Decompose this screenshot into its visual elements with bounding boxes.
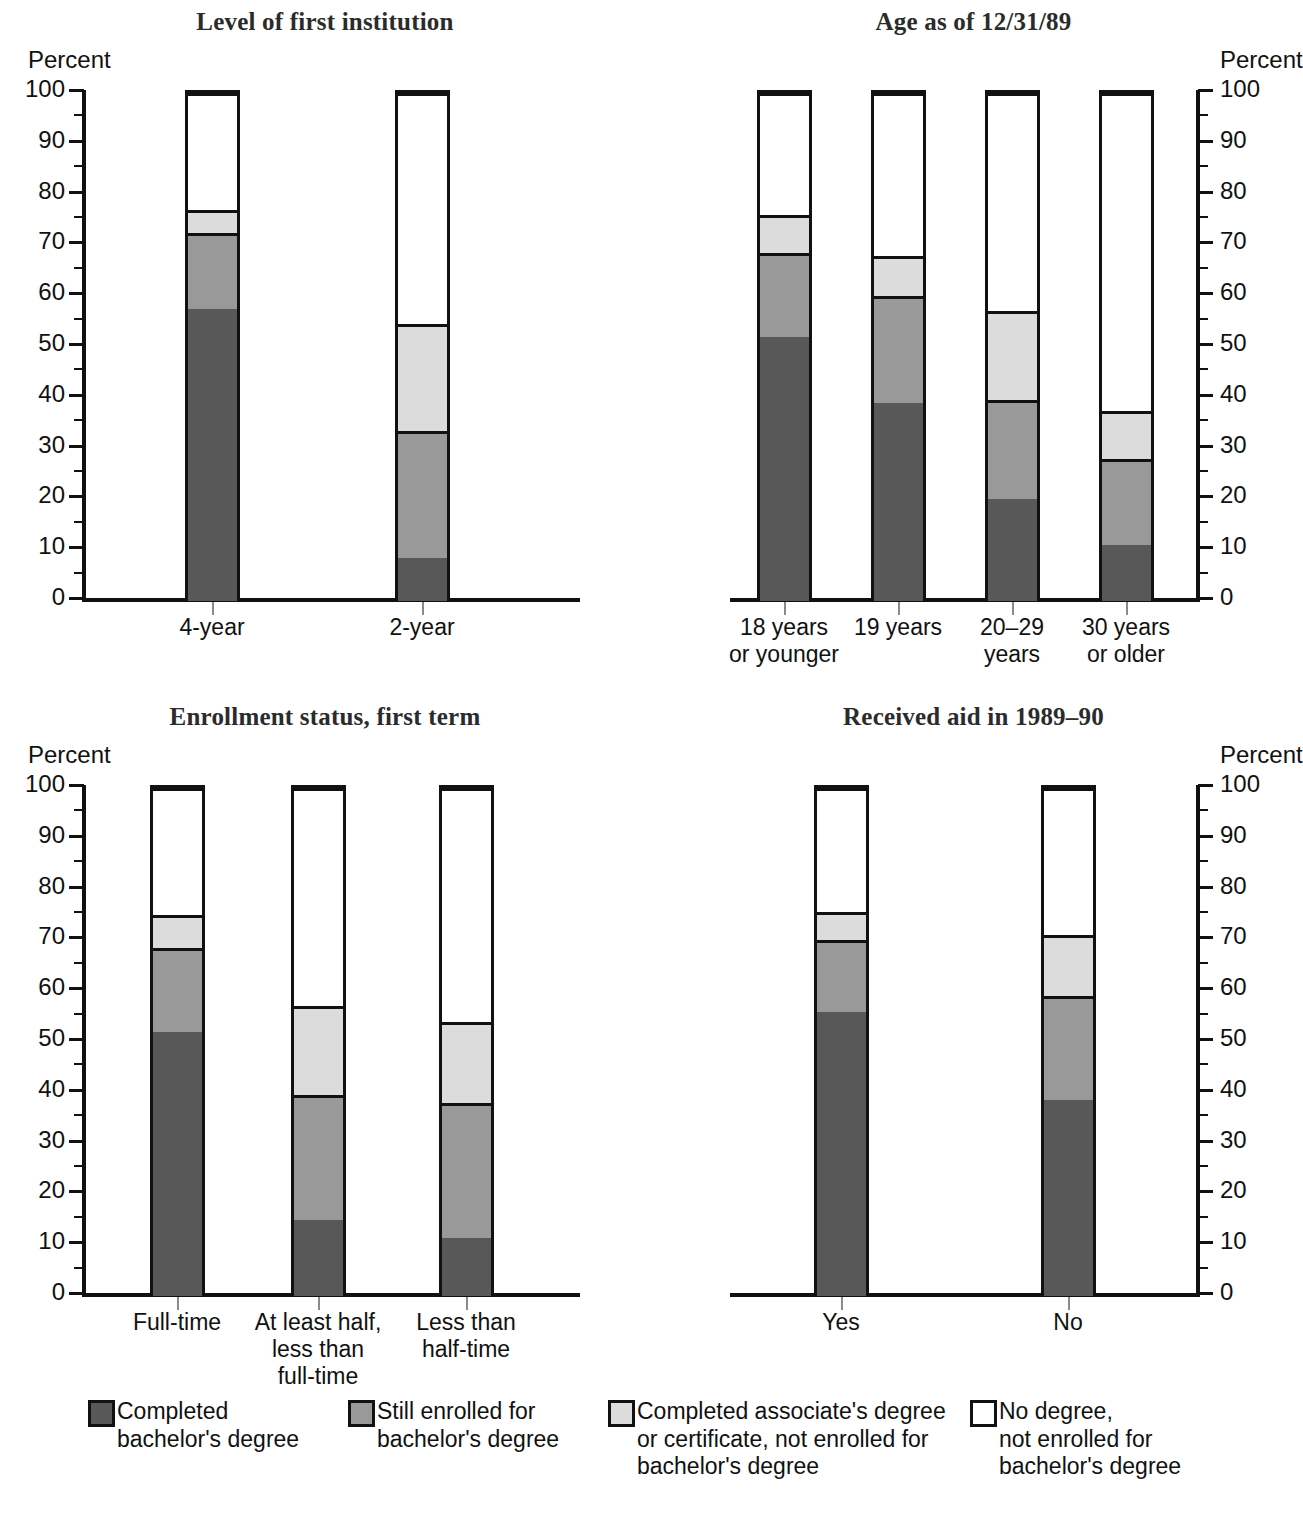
legend-swatch-completed-associate: [608, 1400, 635, 1427]
y-axis-tick-major: [1198, 1241, 1213, 1244]
legend-item: No degree, not enrolled for bachelor's d…: [970, 1398, 1181, 1481]
legend-item: Still enrolled for bachelor's degree: [348, 1398, 559, 1453]
chart-legend: Completed bachelor's degreeStill enrolle…: [0, 1392, 1297, 1517]
legend-label: Still enrolled for bachelor's degree: [377, 1398, 559, 1453]
y-axis-tick-label: 30: [1220, 1128, 1298, 1152]
y-axis-tick-label: 50: [1220, 1026, 1298, 1050]
bar-segment-completed-bachelors: [817, 1012, 866, 1296]
y-axis-tick-major: [1198, 1089, 1213, 1092]
stacked-bar: [1041, 785, 1096, 1293]
y-axis-tick-minor: [1198, 1267, 1208, 1269]
bar-segment-no-degree: [817, 788, 866, 912]
legend-swatch-still-enrolled: [348, 1400, 375, 1427]
y-axis-tick-minor: [1198, 1165, 1208, 1167]
legend-label: Completed bachelor's degree: [117, 1398, 299, 1453]
y-axis-tick-major: [1198, 936, 1213, 939]
y-axis-tick-label: 0: [1220, 1280, 1298, 1304]
y-axis-tick-minor: [1198, 962, 1208, 964]
y-axis-tick-major: [1198, 1292, 1213, 1295]
y-axis-tick-minor: [1198, 1063, 1208, 1065]
y-axis-tick-major: [1198, 835, 1213, 838]
y-axis-tick-major: [1198, 886, 1213, 889]
y-axis-tick-major: [1198, 1038, 1213, 1041]
y-axis-tick-label: 100: [1220, 772, 1298, 796]
y-axis-title: Percent: [1220, 741, 1303, 769]
y-axis-tick-major: [1198, 784, 1213, 787]
bar-segment-no-degree: [1044, 788, 1093, 935]
y-axis-tick-major: [1198, 987, 1213, 990]
x-axis-category-label: Yes: [771, 1309, 911, 1336]
legend-label: Completed associate's degree or certific…: [637, 1398, 946, 1481]
bar-segment-completed-bachelors: [1044, 1100, 1093, 1296]
x-axis-category-label: No: [998, 1309, 1138, 1336]
legend-label: No degree, not enrolled for bachelor's d…: [999, 1398, 1181, 1481]
bar-segment-still-enrolled: [817, 940, 866, 1011]
chart-title: Received aid in 1989–90: [650, 703, 1297, 731]
bar-segment-still-enrolled: [1044, 996, 1093, 1100]
bar-segment-completed-associate: [1044, 935, 1093, 996]
y-axis-tick-minor: [1198, 911, 1208, 913]
legend-swatch-no-degree: [970, 1400, 997, 1427]
y-axis-tick-minor: [1198, 1013, 1208, 1015]
x-axis-line: [730, 1293, 1200, 1297]
y-axis-tick-label: 90: [1220, 823, 1298, 847]
y-axis-tick-label: 80: [1220, 874, 1298, 898]
y-axis-tick-minor: [1198, 860, 1208, 862]
y-axis-tick-minor: [1198, 1114, 1208, 1116]
y-axis-tick-label: 10: [1220, 1229, 1298, 1253]
bar-segment-completed-associate: [817, 912, 866, 940]
legend-item: Completed bachelor's degree: [88, 1398, 299, 1453]
y-axis-tick-major: [1198, 1140, 1213, 1143]
stacked-bar: [814, 785, 869, 1293]
y-axis-tick-major: [1198, 1190, 1213, 1193]
legend-item: Completed associate's degree or certific…: [608, 1398, 946, 1481]
y-axis-tick-minor: [1198, 809, 1208, 811]
legend-swatch-completed-bachelors: [88, 1400, 115, 1427]
y-axis-tick-label: 70: [1220, 924, 1298, 948]
y-axis-tick-label: 60: [1220, 975, 1298, 999]
y-axis-tick-minor: [1198, 1216, 1208, 1218]
y-axis-tick-label: 40: [1220, 1077, 1298, 1101]
y-axis-tick-label: 20: [1220, 1178, 1298, 1202]
